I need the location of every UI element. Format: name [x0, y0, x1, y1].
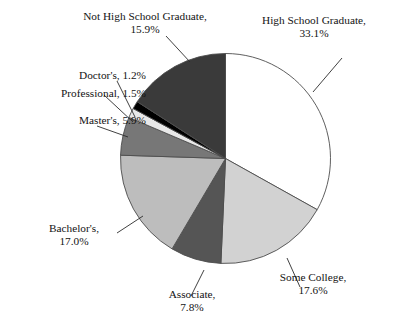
pie-label-high-school-graduate-name: High School Graduate, [238, 14, 390, 27]
leader-line-high-school-graduate [313, 58, 342, 92]
pie-label-high-school-graduate: High School Graduate, 33.1% [238, 14, 390, 40]
pie-label-bachelors: Bachelor's, 17.0% [22, 222, 126, 248]
pie-label-some-college: Some College, 17.6% [258, 271, 368, 297]
pie-label-associate: Associate, 7.8% [142, 288, 242, 314]
leader-line-masters [97, 126, 128, 137]
pie-label-doctors: Doctor's, 1.2% [28, 69, 146, 82]
pie-label-some-college-value: 17.6% [258, 284, 368, 297]
pie-chart-figure: Not High School Graduate, 15.9% High Sch… [0, 0, 395, 332]
pie-label-masters: Master's, 5.9% [8, 114, 146, 127]
pie-label-high-school-graduate-value: 33.1% [238, 27, 390, 40]
pie-label-not-high-school-graduate-name: Not High School Graduate, [60, 10, 230, 23]
leader-line-not-high-school-graduate [166, 36, 190, 62]
pie-label-not-high-school-graduate-value: 15.9% [60, 23, 230, 36]
pie-label-professional-text: Professional, 1.5% [2, 87, 146, 100]
pie-label-bachelors-name: Bachelor's, [22, 222, 126, 235]
pie-label-not-high-school-graduate: Not High School Graduate, 15.9% [60, 10, 230, 36]
pie-slices-group [120, 54, 330, 264]
pie-label-bachelors-value: 17.0% [22, 235, 126, 248]
pie-label-some-college-name: Some College, [258, 271, 368, 284]
pie-label-doctors-text: Doctor's, 1.2% [28, 69, 146, 82]
pie-label-masters-text: Master's, 5.9% [8, 114, 146, 127]
pie-label-associate-name: Associate, [142, 288, 242, 301]
pie-label-associate-value: 7.8% [142, 301, 242, 314]
pie-label-professional: Professional, 1.5% [2, 87, 146, 100]
